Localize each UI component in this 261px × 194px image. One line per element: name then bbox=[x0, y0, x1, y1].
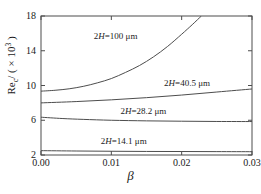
x-tick-label: 0.03 bbox=[235, 157, 261, 168]
x-axis-label: β bbox=[0, 168, 261, 184]
curve-annotation: 2H=100 μm bbox=[94, 31, 138, 41]
y-axis-label-prefix: Re bbox=[5, 82, 17, 94]
data-series-line bbox=[41, 117, 252, 121]
y-axis-label-exponent: 3 bbox=[4, 43, 13, 47]
y-tick-label: 6 bbox=[20, 114, 36, 125]
curve-annotation: 2H=40.5 μm bbox=[164, 78, 210, 88]
x-tick-label: 0.02 bbox=[165, 157, 199, 168]
chart-figure: Rec/ ( × 103 ) β 0.000.010.020.03 261014… bbox=[0, 0, 261, 194]
data-series-line bbox=[41, 151, 252, 152]
data-series-line bbox=[41, 89, 252, 103]
y-tick-label: 18 bbox=[20, 10, 36, 21]
y-axis-label-mid: / ( × 10 bbox=[5, 47, 17, 79]
curve-annotation: 2H=14.1 μm bbox=[101, 136, 147, 146]
y-tick-label: 10 bbox=[20, 80, 36, 91]
y-tick-label: 2 bbox=[20, 149, 36, 160]
y-axis-label: Rec/ ( × 103 ) bbox=[4, 26, 21, 104]
x-tick-label: 0.01 bbox=[94, 157, 128, 168]
y-tick-label: 14 bbox=[20, 45, 36, 56]
curve-annotation: 2H=28.2 μm bbox=[120, 106, 166, 116]
y-axis-label-suffix: ) bbox=[5, 36, 17, 42]
axes-frame bbox=[41, 16, 252, 155]
